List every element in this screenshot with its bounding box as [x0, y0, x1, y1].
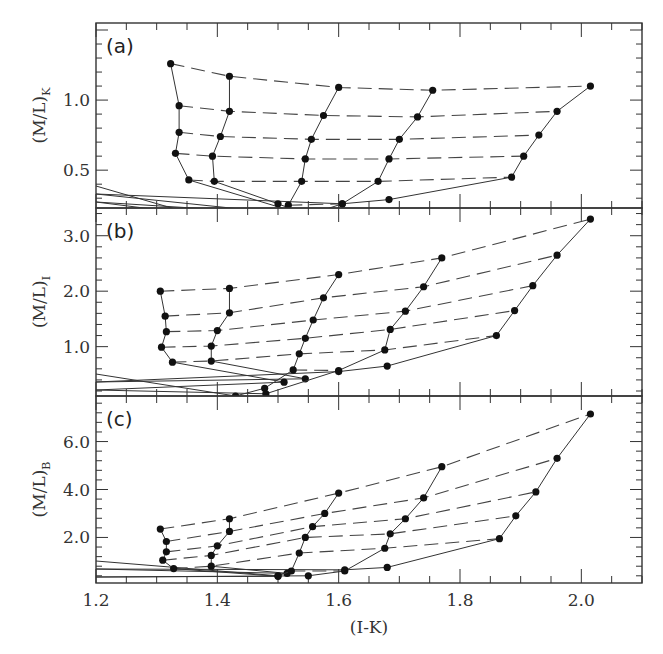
panel-frame	[96, 23, 642, 208]
data-point	[169, 359, 176, 366]
data-point	[335, 271, 342, 278]
data-point	[381, 545, 388, 552]
y-tick-label: 4.0	[63, 480, 90, 500]
data-point	[396, 136, 403, 143]
data-point	[226, 73, 233, 80]
track-line	[160, 291, 284, 382]
data-point	[226, 309, 233, 316]
isochrone-line	[174, 539, 500, 569]
isochrone-line	[179, 132, 539, 139]
data-point	[163, 548, 170, 555]
data-point	[414, 113, 421, 120]
data-point	[226, 108, 233, 115]
data-point	[387, 530, 394, 537]
data-point	[302, 534, 309, 541]
data-point	[274, 221, 281, 228]
data-point	[211, 178, 218, 185]
data-point	[335, 368, 342, 375]
data-point	[420, 283, 427, 290]
panel-b: 1.02.03.0(b)(M/L)I	[29, 208, 642, 400]
data-point	[208, 357, 215, 364]
data-point	[162, 313, 169, 320]
track-line	[171, 64, 306, 215]
data-point	[587, 410, 594, 417]
figure: 0.51.0(a)(M/L)K1.02.03.0(b)(M/L)I2.04.06…	[0, 0, 663, 654]
x-tick-label: 1.6	[325, 590, 352, 610]
y-tick-label: 1.0	[63, 337, 90, 357]
data-point	[302, 335, 309, 342]
x-tick-label: 1.2	[82, 590, 109, 610]
data-point	[385, 196, 392, 203]
data-point	[438, 463, 445, 470]
data-point	[163, 328, 170, 335]
x-tick-label: 2.0	[568, 590, 595, 610]
track-line	[236, 275, 339, 396]
y-tick-label: 2.0	[63, 527, 90, 547]
data-point	[268, 214, 275, 221]
y-tick-label: 6.0	[63, 432, 90, 452]
data-point	[176, 102, 183, 109]
data-point	[420, 494, 427, 501]
data-point	[290, 366, 297, 373]
data-point	[587, 215, 594, 222]
data-point	[159, 557, 166, 564]
data-point	[170, 565, 177, 572]
y-axis-label: (M/L)K	[29, 87, 53, 144]
track-line	[211, 288, 305, 378]
data-point	[157, 288, 164, 295]
data-point	[274, 200, 281, 207]
data-point	[296, 350, 303, 357]
data-point	[288, 567, 295, 574]
data-point	[310, 316, 317, 323]
data-point	[208, 563, 215, 570]
isochrone-line	[171, 64, 591, 91]
data-point	[226, 285, 233, 292]
data-point	[214, 327, 221, 334]
y-axis-label: (M/L)I	[29, 276, 53, 328]
isochrone-line	[288, 204, 342, 205]
isochrone-line	[189, 177, 512, 181]
data-point	[429, 87, 436, 94]
data-point	[508, 174, 515, 181]
data-point	[320, 112, 327, 119]
data-point	[529, 282, 536, 289]
data-point	[214, 542, 221, 549]
data-point	[226, 528, 233, 535]
data-point	[172, 150, 179, 157]
track-line	[212, 76, 311, 216]
isochrone-line	[165, 255, 557, 316]
data-point	[157, 525, 164, 532]
y-axis-label: (M/L)B	[29, 462, 53, 518]
data-point	[375, 178, 382, 185]
data-point	[217, 133, 224, 140]
data-point	[385, 155, 392, 162]
track-line	[254, 87, 339, 231]
data-point	[381, 346, 388, 353]
data-point	[512, 512, 519, 519]
data-point	[553, 455, 560, 462]
x-tick-label: 1.4	[204, 590, 231, 610]
isochrone-line	[163, 516, 516, 560]
data-point	[321, 510, 328, 517]
data-point	[553, 252, 560, 259]
data-point	[296, 549, 303, 556]
data-point	[298, 178, 305, 185]
panel-c: 2.04.06.0(c)(M/L)B	[29, 396, 642, 583]
data-point	[335, 489, 342, 496]
data-point	[320, 294, 327, 301]
isochrone-line	[179, 106, 557, 117]
data-point	[493, 332, 500, 339]
data-point	[302, 211, 309, 218]
track-line	[339, 219, 591, 372]
data-point	[496, 535, 503, 542]
data-point	[438, 254, 445, 261]
isochrone-line	[166, 492, 535, 552]
panel-label: (c)	[106, 407, 133, 431]
data-point	[226, 515, 233, 522]
data-point	[308, 136, 315, 143]
data-point	[339, 200, 346, 207]
y-tick-label: 2.0	[63, 281, 90, 301]
data-point	[553, 108, 560, 115]
y-tick-label: 1.0	[63, 90, 90, 110]
x-axis-label: (I-K)	[350, 617, 388, 637]
